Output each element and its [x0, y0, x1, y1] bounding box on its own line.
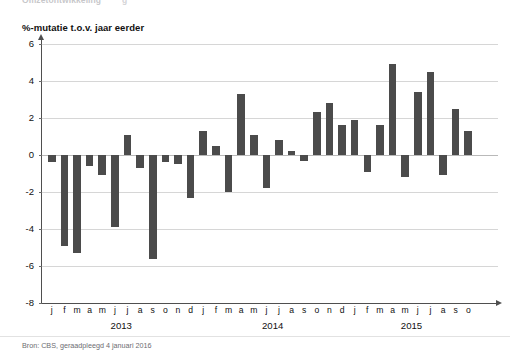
bar[interactable] — [300, 155, 308, 161]
y-axis-tick-label: 2 — [8, 112, 34, 123]
bar[interactable] — [136, 155, 144, 168]
cutoff-headline-strip: Omzetontwikkeling g — [0, 0, 510, 9]
bar[interactable] — [86, 155, 94, 166]
y-axis-tick-label: -4 — [8, 223, 34, 234]
x-axis-year-label: 2015 — [381, 320, 441, 331]
bar[interactable] — [389, 64, 397, 155]
x-axis-tick-label: j — [349, 305, 361, 315]
x-axis-tick-label: j — [424, 305, 436, 315]
x-axis-tick-label: m — [96, 305, 108, 315]
x-axis-arrow-icon — [496, 300, 502, 306]
y-axis-tick-mark — [39, 229, 42, 230]
cutoff-headline-fragment: g — [122, 0, 127, 5]
x-axis-tick-label: o — [311, 305, 323, 315]
bar[interactable] — [237, 94, 245, 155]
y-axis-line — [41, 40, 42, 304]
y-axis-tick-label: -2 — [8, 186, 34, 197]
x-axis-line — [42, 303, 497, 305]
y-axis-tick-mark — [39, 155, 42, 156]
x-axis-tick-label: j — [109, 305, 121, 315]
y-axis-tick-mark — [39, 118, 42, 119]
x-axis-tick-label: m — [399, 305, 411, 315]
x-axis-year-label: 2014 — [243, 320, 303, 331]
x-axis-tick-label: j — [260, 305, 272, 315]
bar[interactable] — [124, 135, 132, 155]
x-axis-tick-label: d — [185, 305, 197, 315]
x-axis-tick-label: a — [286, 305, 298, 315]
x-axis-tick-label: s — [450, 305, 462, 315]
bar[interactable] — [73, 155, 81, 253]
source-note: Bron: CBS, geraadpleegd 4 januari 2016 — [22, 341, 151, 350]
x-axis-tick-label: j — [122, 305, 134, 315]
y-axis-tick-mark — [39, 192, 42, 193]
gridline-6 — [42, 44, 498, 45]
cutoff-headline-text: Omzetontwikkeling — [22, 0, 101, 5]
bar[interactable] — [98, 155, 106, 175]
x-axis-tick-label: j — [46, 305, 58, 315]
bar[interactable] — [174, 155, 182, 164]
chart-plot-area — [42, 44, 498, 303]
y-axis-tick-label: 0 — [8, 149, 34, 160]
bar[interactable] — [187, 155, 195, 198]
x-axis-tick-label: j — [273, 305, 285, 315]
bar[interactable] — [376, 125, 384, 155]
y-axis-tick-mark — [39, 266, 42, 267]
x-axis-tick-label: m — [248, 305, 260, 315]
bar[interactable] — [162, 155, 170, 162]
y-axis-tick-label: 4 — [8, 75, 34, 86]
x-axis-tick-label: n — [172, 305, 184, 315]
x-axis-tick-label: o — [462, 305, 474, 315]
y-axis-tick-mark — [39, 44, 42, 45]
x-axis-tick-label: a — [235, 305, 247, 315]
y-axis-tick-label: -8 — [8, 297, 34, 308]
bar[interactable] — [48, 155, 56, 162]
bar[interactable] — [250, 135, 258, 155]
bar[interactable] — [452, 109, 460, 155]
bar[interactable] — [288, 151, 296, 155]
bar[interactable] — [401, 155, 409, 177]
x-axis-tick-label: f — [361, 305, 373, 315]
x-axis-tick-label: a — [437, 305, 449, 315]
y-axis-arrow-icon — [38, 34, 44, 40]
bar[interactable] — [439, 155, 447, 175]
footer-divider — [0, 336, 510, 337]
x-axis-tick-label: f — [210, 305, 222, 315]
x-axis-tick-label: s — [298, 305, 310, 315]
chart-axis-title: %-mutatie t.o.v. jaar eerder — [22, 22, 144, 33]
x-axis-tick-label: d — [336, 305, 348, 315]
gridline--4 — [42, 229, 498, 230]
x-axis-tick-label: j — [197, 305, 209, 315]
x-axis-tick-label: n — [323, 305, 335, 315]
x-axis-tick-label: j — [412, 305, 424, 315]
x-axis-tick-label: o — [159, 305, 171, 315]
x-axis-year-label: 2013 — [91, 320, 151, 331]
bar[interactable] — [364, 155, 372, 172]
bar[interactable] — [275, 140, 283, 155]
bar[interactable] — [212, 146, 220, 155]
bar[interactable] — [199, 131, 207, 155]
y-axis-tick-mark — [39, 81, 42, 82]
bar[interactable] — [313, 112, 321, 155]
x-axis-tick-label: f — [58, 305, 70, 315]
x-axis-tick-label: a — [84, 305, 96, 315]
x-axis-tick-label: m — [374, 305, 386, 315]
bar[interactable] — [149, 155, 157, 259]
bar[interactable] — [61, 155, 69, 246]
x-axis-tick-label: m — [222, 305, 234, 315]
bar[interactable] — [338, 125, 346, 155]
gridline--6 — [42, 266, 498, 267]
x-axis-tick-label: s — [147, 305, 159, 315]
bar[interactable] — [414, 92, 422, 155]
bar[interactable] — [111, 155, 119, 227]
x-axis-tick-label: a — [134, 305, 146, 315]
bar[interactable] — [464, 131, 472, 155]
bar[interactable] — [351, 120, 359, 155]
bar[interactable] — [263, 155, 271, 188]
y-axis-tick-label: 6 — [8, 38, 34, 49]
x-axis-tick-label: m — [71, 305, 83, 315]
bar[interactable] — [326, 103, 334, 155]
x-axis-tick-label: a — [387, 305, 399, 315]
bar[interactable] — [225, 155, 233, 192]
bar[interactable] — [427, 72, 435, 155]
y-axis-tick-label: -6 — [8, 260, 34, 271]
